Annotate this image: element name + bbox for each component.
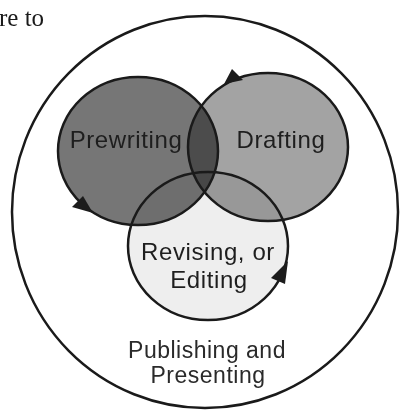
revising-label-line2: Editing <box>170 266 248 293</box>
drafting-label: Drafting <box>237 126 326 153</box>
prewriting-label: Prewriting <box>70 126 183 153</box>
writing-process-diagram: re to Prewriting Drafting Revising, or E… <box>0 0 400 413</box>
publishing-label-line2: Presenting <box>151 362 266 388</box>
page-text-fragment: re to <box>0 4 44 31</box>
revising-label-line1: Revising, or <box>141 238 275 265</box>
diagram-canvas: re to Prewriting Drafting Revising, or E… <box>0 0 400 413</box>
publishing-label-line1: Publishing and <box>128 337 286 363</box>
